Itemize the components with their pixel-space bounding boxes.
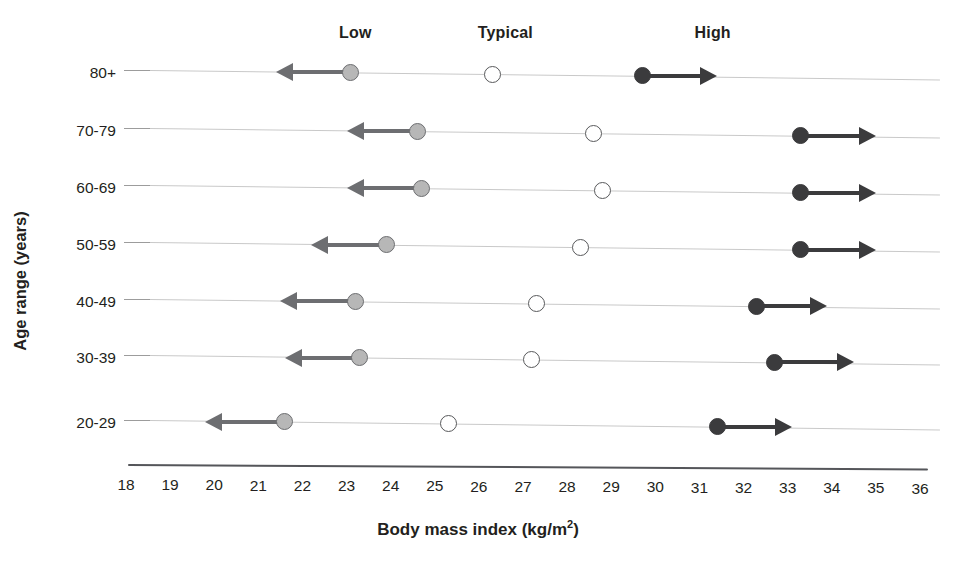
x-tick-23: 23 [338, 477, 355, 495]
group-header-high: High [694, 24, 730, 42]
high-range-arrowhead [859, 127, 876, 145]
low-range-arrowhead [276, 63, 293, 81]
typical-marker-dot[interactable] [572, 239, 589, 256]
x-tick-34: 34 [823, 479, 840, 497]
x-tick-22: 22 [294, 477, 311, 495]
typical-marker-dot[interactable] [523, 351, 540, 368]
group-header-typical: Typical [478, 24, 533, 42]
bmi-by-age-chart: LowTypicalHigh Age range (years) 80+70-7… [0, 0, 956, 561]
high-range-arrowhead [775, 418, 792, 436]
y-axis-tick-stub [124, 128, 150, 129]
x-tick-26: 26 [470, 478, 487, 496]
high-range-arrow-shaft [801, 134, 861, 138]
high-marker-dot[interactable] [748, 298, 765, 315]
high-range-arrowhead [700, 67, 717, 85]
high-range-arrow-shaft [774, 360, 838, 364]
high-range-arrow-shaft [801, 248, 861, 252]
high-range-arrowhead [859, 184, 876, 202]
y-tick-50-59: 50-59 [76, 236, 116, 254]
y-tick-30-39: 30-39 [76, 349, 116, 367]
high-marker-dot[interactable] [792, 127, 809, 144]
low-marker-dot[interactable] [351, 349, 368, 366]
typical-marker-dot[interactable] [484, 66, 501, 83]
low-marker-dot[interactable] [276, 413, 293, 430]
x-tick-20: 20 [206, 476, 223, 494]
typical-marker-dot[interactable] [528, 295, 545, 312]
y-axis-tick-stub [124, 185, 150, 186]
x-tick-21: 21 [250, 477, 267, 495]
low-marker-dot[interactable] [342, 64, 359, 81]
low-range-arrowhead [285, 349, 302, 367]
low-range-arrowhead [347, 179, 364, 197]
low-marker-dot[interactable] [378, 236, 395, 253]
x-tick-36: 36 [911, 480, 928, 498]
y-tick-60-69: 60-69 [76, 179, 116, 197]
x-tick-19: 19 [161, 476, 178, 494]
high-range-arrow-shaft [757, 304, 813, 308]
typical-marker-dot[interactable] [585, 125, 602, 142]
high-marker-dot[interactable] [634, 67, 651, 84]
low-range-arrow-shaft [220, 420, 284, 424]
x-tick-24: 24 [382, 477, 399, 495]
x-tick-35: 35 [867, 479, 884, 497]
x-tick-18: 18 [117, 476, 134, 494]
high-range-arrow-shaft [642, 74, 702, 78]
high-range-arrow-shaft [717, 425, 777, 429]
typical-marker-dot[interactable] [440, 415, 457, 432]
low-marker-dot[interactable] [413, 180, 430, 197]
y-axis-tick-stub [124, 299, 150, 300]
high-range-arrowhead [837, 353, 854, 371]
x-axis-title-text: Body mass index (kg/m [377, 520, 567, 539]
low-marker-dot[interactable] [409, 123, 426, 140]
x-axis-title-tail: ) [573, 520, 579, 539]
low-range-arrowhead [205, 413, 222, 431]
x-axis-line [128, 464, 928, 470]
y-axis-title: Age range (years) [11, 171, 30, 391]
low-marker-dot[interactable] [347, 293, 364, 310]
y-axis-tick-stub [124, 355, 150, 356]
high-range-arrowhead [810, 297, 827, 315]
high-marker-dot[interactable] [792, 184, 809, 201]
x-tick-29: 29 [603, 478, 620, 496]
x-tick-25: 25 [426, 477, 443, 495]
x-tick-33: 33 [779, 479, 796, 497]
y-tick-80+: 80+ [90, 64, 116, 82]
y-tick-20-29: 20-29 [76, 414, 116, 432]
x-tick-30: 30 [647, 478, 664, 496]
y-axis-tick-stub [124, 242, 150, 243]
low-range-arrowhead [311, 236, 328, 254]
x-tick-27: 27 [514, 478, 531, 496]
x-tick-31: 31 [691, 479, 708, 497]
typical-marker-dot[interactable] [594, 182, 611, 199]
y-axis-tick-stub [124, 70, 150, 71]
high-marker-dot[interactable] [792, 241, 809, 258]
high-marker-dot[interactable] [709, 418, 726, 435]
y-axis-tick-stub [124, 420, 150, 421]
high-range-arrow-shaft [801, 191, 861, 195]
x-tick-28: 28 [558, 478, 575, 496]
low-range-arrowhead [280, 292, 297, 310]
x-tick-32: 32 [735, 479, 752, 497]
y-tick-70-79: 70-79 [76, 122, 116, 140]
row-baseline [150, 70, 940, 80]
x-axis-title: Body mass index (kg/m2) [0, 518, 956, 540]
y-tick-40-49: 40-49 [76, 293, 116, 311]
high-range-arrowhead [859, 241, 876, 259]
high-marker-dot[interactable] [766, 354, 783, 371]
low-range-arrowhead [347, 122, 364, 140]
group-header-low: Low [339, 24, 372, 42]
